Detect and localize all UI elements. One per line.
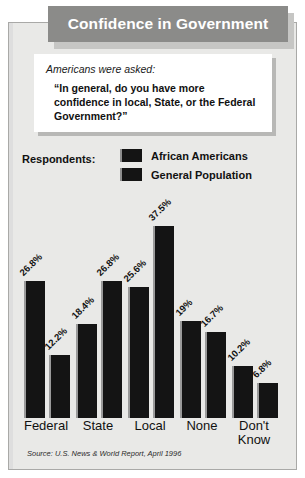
bar	[128, 287, 149, 418]
bar-value-label: 26.8%	[94, 251, 121, 278]
bar-plot-area: 26.8%12.2%18.4%26.8%25.6%37.5%19%16.7%10…	[22, 190, 284, 418]
page-title: Confidence in Government	[68, 15, 268, 33]
legend-label: General Population	[151, 169, 252, 181]
bar	[24, 281, 45, 418]
legend-item-african-americans: African Americans	[120, 146, 252, 165]
bar-group: 25.6%37.5%	[128, 190, 180, 418]
x-axis-category-label: Don't Know	[226, 419, 282, 447]
bar-group: 19%16.7%	[180, 190, 232, 418]
legend-item-general-population: General Population	[120, 165, 252, 184]
source-note: Source: U.S. News & World Report, April …	[27, 449, 181, 458]
frame-edge-shade	[9, 23, 13, 469]
bar-value-label: 37.5%	[146, 196, 173, 223]
bar	[257, 383, 278, 418]
x-axis-category-label: None	[174, 419, 230, 433]
legend-swatch-icon	[120, 168, 142, 181]
bar-group: 26.8%12.2%	[24, 190, 76, 418]
quote-box: Americans were asked: “In general, do yo…	[34, 54, 272, 132]
legend-swatch-icon	[120, 149, 142, 162]
quote-question-text: “In general, do you have more confidence…	[54, 82, 260, 124]
bar-value-label: 26.8%	[17, 251, 44, 278]
bar-value-label: 16.7%	[198, 302, 225, 329]
bar	[232, 366, 253, 418]
bar	[153, 226, 174, 418]
legend-label: African Americans	[151, 150, 248, 162]
title-banner: Confidence in Government	[48, 6, 288, 42]
legend-items: African Americans General Population	[120, 146, 252, 184]
x-axis-category-label: State	[70, 419, 126, 433]
bar	[180, 321, 201, 418]
bar	[49, 355, 70, 418]
quote-lead-text: Americans were asked:	[46, 63, 260, 75]
x-axis-category-label: Local	[122, 419, 178, 433]
bar-group: 18.4%26.8%	[76, 190, 128, 418]
x-axis-category-label: Federal	[18, 419, 74, 433]
bar-group: 10.2%6.8%	[232, 190, 284, 418]
bar-value-label: 6.8%	[250, 357, 273, 380]
bar-value-label: 12.2%	[42, 325, 69, 352]
legend: Respondents: African Americans General P…	[22, 146, 284, 186]
bar	[101, 281, 122, 418]
bar	[205, 332, 226, 418]
chart-page: Confidence in Government Americans were …	[0, 0, 305, 478]
legend-title: Respondents:	[22, 153, 95, 165]
bar	[76, 324, 97, 418]
